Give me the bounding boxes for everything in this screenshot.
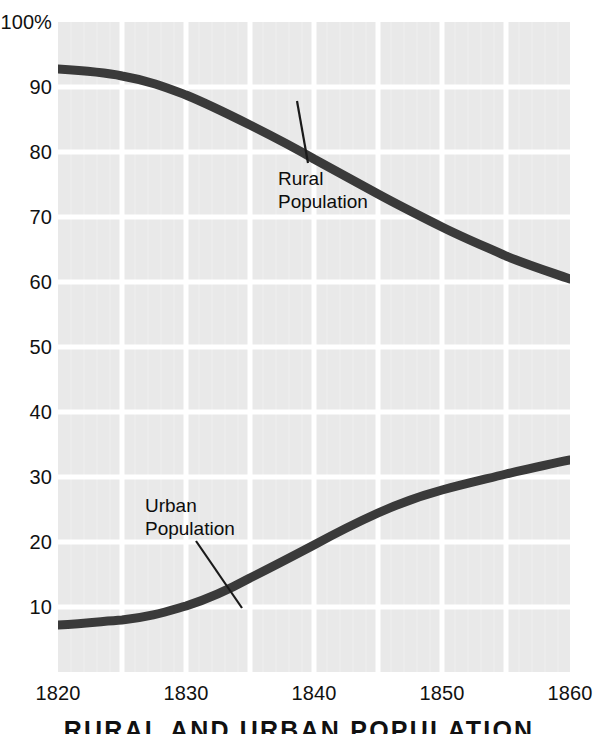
y-tick-label-70: 70 [0, 207, 52, 227]
rural-series-label: Rural Population [278, 167, 368, 213]
y-tick-label-20: 20 [0, 532, 52, 552]
chart-canvas [0, 0, 598, 734]
y-tick-label-10: 10 [0, 597, 52, 617]
chart-figure: 100% 90 80 70 60 50 40 30 20 10 1820 183… [0, 0, 598, 734]
x-tick-label-1860: 1860 [524, 683, 598, 703]
y-tick-label-40: 40 [0, 402, 52, 422]
rural-series-label-line2: Population [278, 190, 368, 213]
y-tick-label-30: 30 [0, 467, 52, 487]
y-tick-label-60: 60 [0, 272, 52, 292]
chart-caption: RURAL AND URBAN POPULATION [0, 716, 598, 734]
y-tick-label-90: 90 [0, 77, 52, 97]
y-tick-label-80: 80 [0, 142, 52, 162]
x-tick-label-1830: 1830 [140, 683, 232, 703]
x-tick-label-1820: 1820 [12, 683, 104, 703]
x-tick-label-1840: 1840 [268, 683, 360, 703]
urban-series-label: Urban Population [145, 494, 235, 540]
y-tick-label-50: 50 [0, 337, 52, 357]
x-tick-label-1850: 1850 [396, 683, 488, 703]
urban-series-label-line2: Population [145, 517, 235, 540]
rural-series-label-line1: Rural [278, 167, 368, 190]
y-tick-label-100: 100% [0, 12, 52, 32]
urban-series-label-line1: Urban [145, 494, 235, 517]
